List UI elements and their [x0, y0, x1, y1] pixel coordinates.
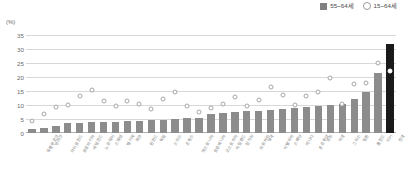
data-point-marker	[256, 97, 261, 102]
x-axis-tick-label: 독일	[160, 134, 167, 143]
y-axis-unit-label: (%)	[6, 19, 15, 25]
bar	[64, 123, 71, 133]
gridline	[26, 91, 396, 92]
data-point-marker	[125, 99, 130, 104]
data-point-marker	[220, 101, 225, 106]
bar	[183, 118, 190, 133]
gridline	[26, 77, 396, 78]
data-point-marker	[173, 89, 178, 94]
bar	[303, 107, 310, 133]
y-axis-tick-label: 20	[0, 74, 24, 81]
bar	[40, 128, 47, 133]
legend-item-marker-series: 15~64세	[363, 2, 397, 10]
data-point-marker	[328, 75, 333, 80]
data-point-marker	[113, 103, 118, 108]
bar	[291, 108, 298, 133]
x-axis-tick-label: 터키	[386, 134, 393, 143]
bar	[327, 105, 334, 133]
legend-item-bar-series: 55~64세	[320, 3, 353, 10]
y-axis-tick-label: 15	[0, 88, 24, 95]
data-point-marker	[209, 105, 214, 110]
chart-legend: 55~64세 15~64세	[320, 2, 397, 10]
data-point-marker	[340, 102, 345, 107]
data-point-marker	[41, 111, 46, 116]
x-axis-tick-label: 호주	[327, 134, 334, 143]
bar	[112, 122, 119, 133]
data-point-marker	[197, 110, 202, 115]
data-point-marker	[244, 104, 249, 109]
bar	[255, 111, 262, 133]
x-axis-tick-label: 스위스	[174, 134, 183, 147]
data-point-marker	[376, 61, 381, 66]
data-point-marker	[292, 102, 297, 107]
legend-label-bar-series: 55~64세	[330, 3, 353, 9]
bar	[231, 112, 238, 133]
x-axis-tick-label: 일본	[362, 134, 369, 143]
bar	[76, 123, 83, 133]
gridline	[26, 35, 396, 36]
bar	[124, 121, 131, 133]
gridline	[26, 49, 396, 50]
x-axis-tick-label: 미국	[339, 134, 346, 143]
data-point-marker	[29, 119, 34, 124]
data-point-marker	[149, 107, 154, 112]
bar	[100, 122, 107, 133]
bar	[28, 129, 35, 133]
y-axis-tick-label: 5	[0, 116, 24, 123]
bar	[219, 113, 226, 133]
bar	[339, 104, 346, 133]
data-point-marker	[89, 87, 94, 92]
bar	[386, 44, 393, 133]
y-axis-tick-label: 0	[0, 130, 24, 137]
data-point-marker	[77, 94, 82, 99]
bar	[362, 92, 369, 133]
data-point-marker	[185, 104, 190, 109]
legend-bar-swatch-icon	[320, 3, 327, 10]
legend-label-marker-series: 15~64세	[374, 3, 397, 9]
gridline	[26, 63, 396, 64]
data-point-marker	[268, 84, 273, 89]
data-point-marker	[280, 93, 285, 98]
bar	[171, 119, 178, 133]
x-axis-tick-label: 프랑스	[186, 134, 195, 147]
bar	[315, 106, 322, 133]
bar	[136, 121, 143, 133]
y-axis-tick-label: 35	[0, 32, 24, 39]
data-point-marker	[101, 98, 106, 103]
data-point-marker	[65, 103, 70, 108]
legend-circle-marker-icon	[363, 2, 371, 10]
data-point-marker	[352, 82, 357, 87]
bar	[374, 73, 381, 133]
bar	[267, 110, 274, 133]
x-axis-tick-label: 한국	[398, 134, 405, 143]
x-axis-tick-label: 캐나다	[305, 134, 314, 147]
y-axis-tick-label: 25	[0, 60, 24, 67]
bar	[207, 114, 214, 133]
bar	[351, 99, 358, 133]
data-point-marker	[161, 97, 166, 102]
plot-area	[26, 35, 396, 133]
bar	[243, 111, 250, 133]
data-point-marker	[316, 90, 321, 95]
bar	[88, 122, 95, 133]
x-axis-tick-label: 영국	[267, 134, 274, 143]
x-axis-tick-label: 체코	[136, 134, 143, 143]
x-axis-tick-labels: 룩셈부르크덴마크아이슬란드슬로바키아네덜란드노르웨이스웨덴벨기에체코핀란드독일스…	[26, 134, 396, 173]
data-point-marker	[304, 94, 309, 99]
data-point-marker	[232, 94, 237, 99]
bar	[195, 118, 202, 133]
data-point-marker	[364, 80, 369, 85]
data-point-marker	[137, 102, 142, 107]
bar	[148, 120, 155, 133]
y-axis-tick-label: 30	[0, 46, 24, 53]
bar	[52, 126, 59, 133]
data-point-marker	[53, 104, 58, 109]
y-axis-tick-label: 10	[0, 102, 24, 109]
bar	[160, 120, 167, 133]
bar	[279, 109, 286, 133]
data-point-marker	[388, 68, 393, 73]
